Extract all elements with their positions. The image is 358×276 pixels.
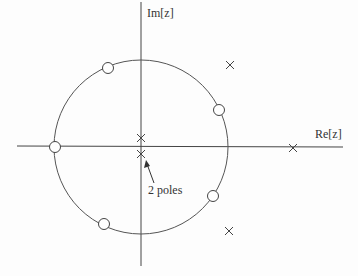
pole-marker — [289, 144, 297, 152]
zero-marker — [208, 191, 219, 202]
annotation-arrow — [144, 160, 154, 183]
imag-axis-label-text: Im[z] — [147, 6, 174, 20]
pole-marker — [225, 227, 233, 235]
pole-zero-diagram: Im[z] Re[z] 2 poles — [0, 0, 358, 276]
zero-marker — [99, 219, 110, 230]
diagram-svg — [0, 0, 358, 276]
real-axis-label: Re[z] — [315, 128, 342, 140]
poles — [137, 61, 297, 235]
two-poles-annotation-text: 2 poles — [148, 183, 182, 197]
zero-marker — [103, 63, 114, 74]
zero-marker — [50, 142, 61, 153]
pole-marker — [226, 61, 234, 69]
zero-marker — [214, 105, 225, 116]
two-poles-annotation: 2 poles — [148, 184, 182, 196]
real-axis-label-text: Re[z] — [315, 127, 342, 141]
imag-axis-label: Im[z] — [147, 7, 174, 19]
